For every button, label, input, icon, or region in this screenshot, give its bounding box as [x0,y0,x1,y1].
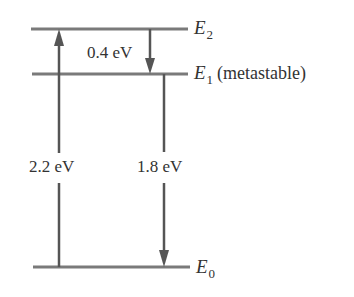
level-subscript: 1 [207,72,214,87]
arrow-down-icon [159,250,169,267]
level-subscript: 2 [207,27,214,42]
level-label-e2: E2 [194,18,213,37]
transition-label-0-4ev: 0.4 eV [87,44,132,61]
arrow-up-icon [54,29,64,46]
level-label-e1: E1(metastable) [194,63,306,82]
level-symbol: E [196,256,208,277]
transition-label-2-2ev: 2.2 eV [29,158,74,175]
level-description: (metastable) [217,63,306,83]
level-symbol: E [194,17,206,38]
level-symbol: E [194,62,206,83]
level-label-e0: E0 [196,257,215,276]
transition-label-1-8ev: 1.8 eV [137,158,182,175]
arrow-down-icon [145,58,155,74]
energy-level-diagram [0,0,354,297]
level-subscript: 0 [209,266,216,281]
